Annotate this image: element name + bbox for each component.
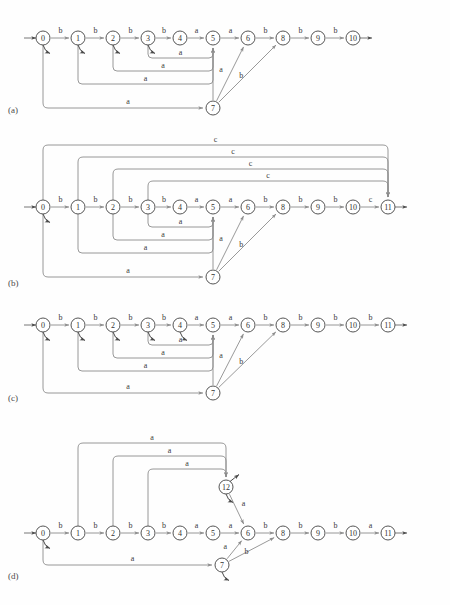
- node-5[interactable]: 5: [206, 318, 220, 332]
- node-10[interactable]: 10: [346, 318, 360, 332]
- node-7[interactable]: 7: [206, 270, 220, 284]
- node-8[interactable]: 8: [276, 318, 290, 332]
- node-2[interactable]: 2: [106, 31, 120, 45]
- node-12[interactable]: 12: [219, 480, 233, 494]
- node-label-2: 2: [111, 203, 115, 212]
- node-5[interactable]: 5: [206, 526, 220, 540]
- panel-caption-d: (d): [8, 571, 19, 581]
- panel-caption-a: (a): [8, 105, 18, 115]
- edge-label-6-8: b: [264, 195, 268, 204]
- node-label-1: 1: [76, 321, 80, 330]
- back-edge-label-2-5: a: [161, 230, 165, 239]
- panel-a: bbbbaabbbaaaaab012345689107: [24, 26, 372, 115]
- edge-label-4-5: a: [195, 521, 199, 530]
- stub-arrow-c-2: [113, 332, 120, 341]
- node-8[interactable]: 8: [276, 31, 290, 45]
- node-8[interactable]: 8: [276, 526, 290, 540]
- edge-label-2-3: b: [129, 521, 133, 530]
- edge-label-6-8: b: [264, 521, 268, 530]
- stub-arrow-d-0: [43, 540, 50, 549]
- node-5[interactable]: 5: [206, 200, 220, 214]
- edge-label-6-8: b: [264, 313, 268, 322]
- node-11[interactable]: 11: [381, 526, 395, 540]
- node-9[interactable]: 9: [311, 200, 325, 214]
- edge-label-1-2: b: [94, 195, 98, 204]
- bottom-edge-0-7: [43, 540, 212, 565]
- node-9[interactable]: 9: [311, 31, 325, 45]
- fan-edge-7-8: [229, 538, 274, 562]
- node-label-10: 10: [349, 203, 357, 212]
- node-3[interactable]: 3: [141, 31, 155, 45]
- fan-edge-label-7-6: a: [224, 542, 228, 551]
- node-0[interactable]: 0: [36, 31, 50, 45]
- node-2[interactable]: 2: [106, 200, 120, 214]
- node-label-0: 0: [41, 529, 45, 538]
- node-3[interactable]: 3: [141, 200, 155, 214]
- node-10[interactable]: 10: [346, 31, 360, 45]
- top-edge-2-11: [113, 169, 388, 200]
- node-label-8: 8: [281, 529, 285, 538]
- edge-label-10-11: a: [369, 521, 373, 530]
- node-label-9: 9: [316, 203, 320, 212]
- back-edge-label-1-5: a: [144, 74, 148, 83]
- node-8[interactable]: 8: [276, 200, 290, 214]
- node-1[interactable]: 1: [71, 318, 85, 332]
- node-1[interactable]: 1: [71, 31, 85, 45]
- node-1[interactable]: 1: [71, 526, 85, 540]
- node-label-3: 3: [146, 34, 150, 43]
- node-9[interactable]: 9: [311, 526, 325, 540]
- node-10[interactable]: 10: [346, 200, 360, 214]
- node-7[interactable]: 7: [215, 558, 229, 572]
- node-0[interactable]: 0: [36, 318, 50, 332]
- stub-arrow-a-0: [43, 45, 50, 54]
- node-4[interactable]: 4: [173, 526, 187, 540]
- node-6[interactable]: 6: [241, 31, 255, 45]
- edge-label-0-1: b: [59, 313, 63, 322]
- node-4[interactable]: 4: [173, 318, 187, 332]
- top-edge-label-0-11: c: [214, 135, 218, 144]
- node-4[interactable]: 4: [173, 200, 187, 214]
- edge-label-5-6: a: [229, 26, 233, 35]
- edge-label-3-4: b: [162, 521, 166, 530]
- edge-label-0-1: b: [59, 195, 63, 204]
- node-10[interactable]: 10: [346, 526, 360, 540]
- node-label-0: 0: [41, 203, 45, 212]
- node-label-4: 4: [178, 529, 182, 538]
- node-0[interactable]: 0: [36, 526, 50, 540]
- stub-arrow-d-7: [222, 572, 229, 581]
- fan-edge-label-7-6: a: [219, 234, 223, 243]
- node-label-2: 2: [111, 321, 115, 330]
- node-label-0: 0: [41, 34, 45, 43]
- fan-edge-label-12-6: a: [242, 499, 246, 508]
- edge-label-6-8: b: [264, 26, 268, 35]
- back-edge-label-3-5: a: [179, 48, 183, 57]
- node-7[interactable]: 7: [206, 101, 220, 115]
- node-label-2: 2: [111, 34, 115, 43]
- node-5[interactable]: 5: [206, 31, 220, 45]
- node-1[interactable]: 1: [71, 200, 85, 214]
- back-edge-label-1-5: a: [144, 243, 148, 252]
- node-11[interactable]: 11: [381, 200, 395, 214]
- node-2[interactable]: 2: [106, 318, 120, 332]
- edge-label-3-4: b: [162, 26, 166, 35]
- panel-caption-b: (b): [8, 278, 19, 288]
- edge-label-2-3: b: [129, 195, 133, 204]
- node-2[interactable]: 2: [106, 526, 120, 540]
- node-label-2: 2: [111, 529, 115, 538]
- node-6[interactable]: 6: [241, 318, 255, 332]
- node-label-7: 7: [211, 104, 215, 113]
- node-6[interactable]: 6: [241, 526, 255, 540]
- node-3[interactable]: 3: [141, 526, 155, 540]
- node-label-6: 6: [246, 34, 250, 43]
- node-7[interactable]: 7: [206, 386, 220, 400]
- node-3[interactable]: 3: [141, 318, 155, 332]
- edge-label-0-1: b: [59, 521, 63, 530]
- node-4[interactable]: 4: [173, 31, 187, 45]
- node-label-12: 12: [222, 483, 230, 492]
- node-11[interactable]: 11: [381, 318, 395, 332]
- node-6[interactable]: 6: [241, 200, 255, 214]
- automata-figure: bbbbaabbbaaaaab012345689107bbbbaabbbcaaa…: [0, 0, 450, 605]
- node-0[interactable]: 0: [36, 200, 50, 214]
- node-label-5: 5: [211, 34, 215, 43]
- node-9[interactable]: 9: [311, 318, 325, 332]
